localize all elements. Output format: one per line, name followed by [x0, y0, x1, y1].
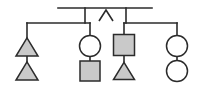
pedigree-symbol-circle-unaffected [167, 36, 188, 57]
pedigree-symbol-square-affected [80, 61, 100, 81]
pedigree-symbol-square-affected [114, 35, 135, 56]
pedigree-symbol-circle-unaffected [167, 61, 188, 82]
pedigree-diagram [0, 0, 208, 86]
pedigree-symbol-triangle-affected [114, 62, 135, 79]
pedigree-canvas [0, 0, 208, 86]
consanguinity-chevron-icon [99, 10, 113, 21]
pedigree-symbol-triangle-affected [16, 38, 38, 56]
pedigree-symbol-triangle-affected [16, 62, 38, 80]
symbol-layer [16, 35, 188, 82]
pedigree-symbol-circle-unaffected [80, 36, 101, 57]
